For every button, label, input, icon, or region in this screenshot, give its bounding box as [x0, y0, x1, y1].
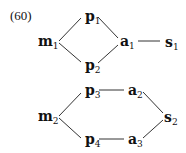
node-p1: p1: [85, 9, 101, 28]
node-m2: m2: [38, 109, 59, 128]
node-p3: p3: [85, 83, 101, 102]
node-s1: s1: [165, 35, 179, 54]
node-p4: p4: [85, 132, 101, 151]
node-a2: a2: [128, 83, 143, 102]
edge-p2-a1: [98, 45, 118, 63]
edge-p1-a1: [98, 17, 118, 38]
edge-a2-s2: [143, 92, 163, 113]
node-a3: a3: [128, 132, 143, 151]
edge-m2-p4: [59, 118, 81, 138]
node-a1: a1: [120, 34, 135, 53]
node-p2: p2: [85, 58, 101, 77]
edge-m1-p2: [59, 43, 81, 62]
edge-m1-p1: [59, 18, 81, 41]
edge-a3-s2: [143, 120, 163, 138]
node-m1: m1: [38, 34, 59, 53]
node-s2: s2: [164, 110, 178, 129]
edge-m2-p3: [59, 93, 81, 116]
